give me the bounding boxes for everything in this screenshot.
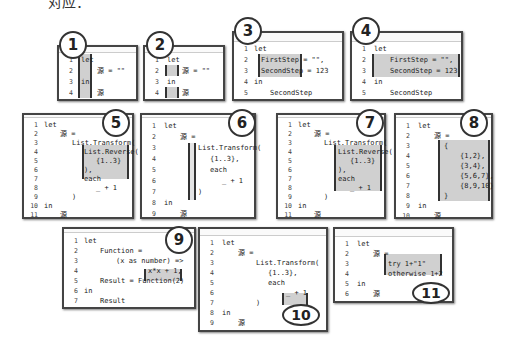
code-line: 11源 xyxy=(278,211,384,220)
code-line: 7Result xyxy=(64,296,194,306)
code-line: 3List.Transform( xyxy=(142,143,254,154)
code-line: 3List.Transform( xyxy=(278,139,384,148)
code-line: 8in xyxy=(142,198,254,209)
code-line: 3List.Transform( xyxy=(200,258,326,268)
code-line: 9) xyxy=(278,193,384,202)
code-line: 5{1..3} xyxy=(24,157,132,166)
code-line: 10源 xyxy=(396,211,491,221)
code-area: 1let 2FirstStep = "", 3SecondStep = 123 … xyxy=(352,42,461,99)
code-line: 9in xyxy=(396,201,491,211)
code-line: 3SecondStep = 123 xyxy=(234,66,342,77)
step-badge-10: 10 xyxy=(282,304,320,326)
code-line: 4List.Reverse( xyxy=(278,148,384,157)
code-line: 9源 xyxy=(142,209,254,220)
code-line: 4List.Reverse( xyxy=(24,148,132,157)
code-line: 10in xyxy=(278,202,384,211)
code-line: 4in xyxy=(352,77,461,88)
step-badge-7: 7 xyxy=(356,109,384,137)
code-line: 1let xyxy=(335,239,452,249)
code-line: 1let xyxy=(352,44,461,55)
step-badge-8: 8 xyxy=(460,109,488,137)
code-line: 8_ + 1 xyxy=(278,184,384,193)
code-line: 3{ xyxy=(396,141,491,151)
code-line: 2FirstStep = "", xyxy=(234,55,342,66)
code-line: 4{1..3}, xyxy=(142,154,254,165)
code-line: 4{1,2}, xyxy=(396,151,491,161)
code-area: 1let 2FirstStep = "", 3SecondStep = 123 … xyxy=(234,42,342,99)
code-line: 6_ + 1 xyxy=(142,176,254,187)
step-badge-11: 11 xyxy=(412,282,450,304)
code-area: 1let 2源 = "" 3in 4源 xyxy=(59,53,136,99)
code-line: 3in xyxy=(145,77,223,88)
code-line: 4otherwise 1+2 xyxy=(335,269,452,279)
code-line: 5Result = Function(2) xyxy=(64,276,194,286)
code-line: 1let xyxy=(200,238,326,248)
code-line: 6{5,6,7}, xyxy=(396,171,491,181)
code-line: 5{1..3} xyxy=(278,157,384,166)
code-line: 2源 = xyxy=(335,249,452,259)
editor-topbar xyxy=(335,229,452,237)
code-line: 5SecondStep xyxy=(352,88,461,99)
code-line: 6_ + 1 xyxy=(200,288,326,298)
code-line: 3try 1+"1" xyxy=(335,259,452,269)
code-line: 5SecondStep xyxy=(234,88,342,99)
code-line: 3SecondStep = 123 xyxy=(352,66,461,77)
code-line: 5each xyxy=(142,165,254,176)
code-line: 7each xyxy=(278,175,384,184)
step-badge-3: 3 xyxy=(234,17,262,45)
code-line: 3(x as number) => xyxy=(64,256,194,266)
code-line: 5each xyxy=(200,278,326,288)
code-line: 1let xyxy=(234,44,342,55)
code-line: 4x*x + 1, xyxy=(64,266,194,276)
code-line: 4源 xyxy=(145,88,223,99)
step-badge-6: 6 xyxy=(228,109,256,137)
code-line: 8_ + 1 xyxy=(24,184,132,193)
code-line: 3List.Transform( xyxy=(24,139,132,148)
editor-topbar xyxy=(200,229,326,236)
step-badge-9: 9 xyxy=(165,226,193,254)
code-line: 3in xyxy=(59,77,136,88)
code-line: 11源 xyxy=(24,211,132,220)
code-line: 5{3,4}, xyxy=(396,161,491,171)
code-line: 8} xyxy=(396,191,491,201)
code-line: 4in xyxy=(234,77,342,88)
code-line: 7{8,9,10} xyxy=(396,181,491,191)
code-line: 2源 = "" xyxy=(59,66,136,77)
code-line: 4{1..3}, xyxy=(200,268,326,278)
code-line: 2源 = "" xyxy=(145,66,223,77)
code-line: 2源 = xyxy=(200,248,326,258)
step-badge-4: 4 xyxy=(352,17,380,45)
code-line: 7each xyxy=(24,175,132,184)
code-area: 1let 2源 = "" 3in 4源 xyxy=(145,53,223,99)
caption: 对应： xyxy=(48,0,90,11)
code-line: 9) xyxy=(24,193,132,202)
code-line: 2FirstStep = "", xyxy=(352,55,461,66)
step-badge-2: 2 xyxy=(146,31,174,59)
code-line: 4源 xyxy=(59,88,136,99)
code-line: 6in xyxy=(64,286,194,296)
code-line: 10in xyxy=(24,202,132,211)
code-line: 7) xyxy=(142,187,254,198)
step-badge-5: 5 xyxy=(102,109,130,137)
code-line: 6), xyxy=(24,166,132,175)
step-badge-1: 1 xyxy=(59,31,87,59)
code-line: 6), xyxy=(278,166,384,175)
